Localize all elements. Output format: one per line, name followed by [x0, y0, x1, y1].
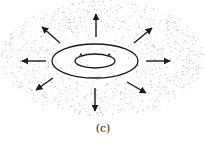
stipple-dot [148, 26, 149, 27]
stipple-dot [141, 28, 142, 29]
stipple-dot [54, 19, 55, 20]
stipple-dot [76, 86, 77, 87]
stipple-dot [179, 26, 180, 27]
stipple-dot [171, 17, 172, 18]
stipple-dot [11, 72, 12, 73]
stipple-dot [19, 26, 20, 27]
stipple-dot [176, 27, 177, 28]
stipple-dot [58, 8, 59, 9]
stipple-dot [180, 28, 181, 29]
stipple-dot [32, 75, 33, 76]
stipple-dot [192, 75, 193, 76]
stipple-dot [164, 28, 165, 29]
stipple-dot [61, 20, 62, 21]
stipple-dot [23, 28, 24, 29]
stipple-dot [11, 56, 12, 57]
stipple-dot [159, 93, 160, 94]
stipple-dot [184, 75, 185, 76]
stipple-dot [113, 95, 114, 96]
stipple-dot [113, 26, 114, 27]
stipple-dot [155, 39, 156, 40]
stipple-dot [72, 33, 73, 34]
stipple-dot [2, 53, 3, 54]
stipple-dot [148, 107, 149, 108]
stipple-dot [26, 50, 27, 51]
stipple-dot [92, 1, 93, 2]
stipple-dot [86, 10, 87, 11]
stipple-dot [78, 3, 79, 4]
stipple-dot [155, 59, 156, 60]
stipple-dot [97, 79, 98, 80]
stipple-dot [146, 70, 147, 71]
stipple-dot [68, 19, 69, 20]
stipple-dot [140, 59, 141, 60]
stipple-dot [77, 82, 78, 83]
stipple-dot [114, 63, 115, 64]
stipple-dot [189, 63, 190, 64]
stipple-dot [167, 29, 168, 30]
stipple-dot [33, 40, 34, 41]
stipple-dot [181, 59, 182, 60]
stipple-dot [34, 56, 35, 57]
stipple-dot [151, 8, 152, 9]
stipple-dot [16, 55, 17, 56]
stipple-dot [34, 73, 35, 74]
stipple-dot [93, 80, 94, 81]
stipple-dot [89, 7, 90, 8]
stipple-dot [144, 11, 145, 12]
stipple-dot [58, 101, 59, 102]
stipple-dot [120, 26, 121, 27]
stipple-dot [105, 85, 106, 86]
stipple-dot [189, 50, 190, 51]
stipple-dot [163, 86, 164, 87]
stipple-dot [86, 60, 87, 61]
stipple-dot [146, 53, 147, 54]
stipple-dot [73, 19, 74, 20]
stipple-dot [47, 53, 48, 54]
stipple-dot [114, 65, 115, 66]
stipple-dot [189, 60, 190, 61]
stipple-dot [19, 50, 20, 51]
stipple-dot [36, 19, 37, 20]
stipple-dot [143, 31, 144, 32]
stipple-dot [183, 49, 184, 50]
stipple-dot [176, 75, 177, 76]
stipple-dot [5, 41, 6, 42]
stipple-dot [97, 94, 98, 95]
stipple-dot [195, 71, 196, 72]
stipple-dot [139, 91, 140, 92]
stipple-dot [36, 86, 37, 87]
stipple-dot [96, 89, 97, 90]
stipple-dot [52, 20, 53, 21]
stipple-dot [99, 5, 100, 6]
stipple-dot [157, 49, 158, 50]
stipple-dot [62, 78, 63, 79]
stipple-dot [104, 8, 105, 9]
stipple-dot [172, 93, 173, 94]
stipple-dot [53, 60, 54, 61]
stipple-dot [62, 42, 63, 43]
stipple-dot [16, 58, 17, 59]
stipple-dot [45, 50, 46, 51]
stipple-dot [118, 60, 119, 61]
stipple-dot [151, 37, 152, 38]
stipple-dot [118, 42, 119, 43]
stipple-dot [20, 61, 21, 62]
stipple-dot [85, 25, 86, 26]
stipple-dot [187, 62, 188, 63]
stipple-dot [107, 30, 108, 31]
stipple-dot [3, 67, 4, 68]
stipple-dot [47, 104, 48, 105]
stipple-dot [69, 78, 70, 79]
stipple-dot [146, 84, 147, 85]
stipple-dot [165, 89, 166, 90]
stipple-dot [191, 46, 192, 47]
stipple-dot [56, 73, 57, 74]
stipple-dot [113, 92, 114, 93]
stipple-dot [86, 40, 87, 41]
stipple-dot [144, 9, 145, 10]
stipple-dot [144, 13, 145, 14]
stipple-dot [140, 6, 141, 7]
stipple-dot [87, 64, 88, 65]
stipple-dot [121, 17, 122, 18]
